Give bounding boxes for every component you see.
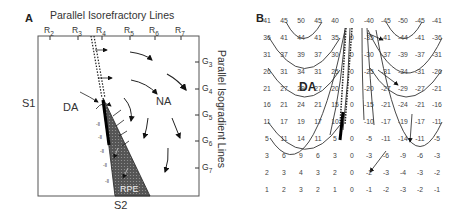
grid-cell: -11 bbox=[412, 135, 428, 142]
grid-cell: -40 bbox=[361, 17, 377, 24]
grid-cell: 21 bbox=[259, 85, 275, 92]
grid-cell: 16 bbox=[259, 101, 275, 108]
grid-cell: 29 bbox=[293, 85, 309, 92]
grid-cell: 0 bbox=[344, 186, 360, 193]
grid-cell: 31 bbox=[259, 51, 275, 58]
grid-cell: -15 bbox=[361, 101, 377, 108]
grid-cell: 3 bbox=[310, 169, 326, 176]
grid-cell: -3 bbox=[395, 186, 411, 193]
grid-cell: 4 bbox=[293, 169, 309, 176]
grid-cell: -41 bbox=[429, 17, 445, 24]
grid-cell: 27 bbox=[310, 85, 326, 92]
grid-cell: 31 bbox=[310, 68, 326, 75]
grid-cell: 3 bbox=[293, 186, 309, 193]
grid-cell: -21 bbox=[412, 101, 428, 108]
grid-cell: 3 bbox=[276, 169, 292, 176]
grid-cell: 37 bbox=[276, 51, 292, 58]
grid-cell: 0 bbox=[344, 152, 360, 159]
grid-cell: -10 bbox=[361, 118, 377, 125]
grid-cell: 20 bbox=[327, 85, 343, 92]
grid-cell: -1 bbox=[361, 186, 377, 193]
grid-cell: 24 bbox=[293, 101, 309, 108]
grid-cell: -25 bbox=[361, 68, 377, 75]
grid-cell: 19 bbox=[293, 118, 309, 125]
grid-cell: 30 bbox=[327, 51, 343, 58]
grid-cell: -45 bbox=[412, 17, 428, 24]
grid-cell: 0 bbox=[344, 17, 360, 24]
grid-cell: 34 bbox=[293, 68, 309, 75]
grid-cell: 45 bbox=[276, 17, 292, 24]
grid-cell: 41 bbox=[310, 34, 326, 41]
grid-cell: -2 bbox=[429, 169, 445, 176]
grid-cell: 17 bbox=[310, 118, 326, 125]
grid-cell: -44 bbox=[395, 34, 411, 41]
grid-cell: 14 bbox=[293, 135, 309, 142]
grid-cell: -11 bbox=[378, 135, 394, 142]
grid-cell: 35 bbox=[327, 34, 343, 41]
grid-cell: 17 bbox=[276, 118, 292, 125]
grid-cell: -2 bbox=[378, 186, 394, 193]
grid-cell: -50 bbox=[395, 17, 411, 24]
grid-cell: 40 bbox=[327, 17, 343, 24]
grid-cell: 41 bbox=[276, 34, 292, 41]
grid-cell: 0 bbox=[344, 135, 360, 142]
grid-cell: -41 bbox=[412, 34, 428, 41]
grid-cell: 2 bbox=[276, 186, 292, 193]
grid-cell: -34 bbox=[395, 68, 411, 75]
grid-cell: 41 bbox=[259, 17, 275, 24]
grid-cell: 0 bbox=[344, 85, 360, 92]
grid-cell: -14 bbox=[395, 135, 411, 142]
grid-cell: -31 bbox=[378, 68, 394, 75]
grid-cell: 11 bbox=[276, 135, 292, 142]
grid-cell: 3 bbox=[259, 152, 275, 159]
grid-cell: 15 bbox=[327, 101, 343, 108]
grid-cell: -6 bbox=[378, 152, 394, 159]
grid-cell: 1 bbox=[259, 186, 275, 193]
grid-cell: 0 bbox=[344, 101, 360, 108]
grid-cell: -24 bbox=[395, 101, 411, 108]
grid-cell: 39 bbox=[293, 51, 309, 58]
grid-cell: -2 bbox=[361, 169, 377, 176]
grid-cell: -5 bbox=[361, 135, 377, 142]
grid-cell: -30 bbox=[361, 51, 377, 58]
grid-cell: 0 bbox=[344, 34, 360, 41]
grid-cell: 1 bbox=[327, 186, 343, 193]
grid-cell: 5 bbox=[327, 135, 343, 142]
grid-cell: -3 bbox=[361, 152, 377, 159]
grid-cell: 2 bbox=[327, 169, 343, 176]
grid-cell: -45 bbox=[378, 17, 394, 24]
grid-cell: 11 bbox=[259, 118, 275, 125]
grid-cell: -37 bbox=[412, 51, 428, 58]
grid-cell: -2 bbox=[412, 186, 428, 193]
grid-cell: -19 bbox=[395, 118, 411, 125]
grid-cell: 37 bbox=[310, 51, 326, 58]
panel-b-curves bbox=[0, 0, 461, 216]
grid-cell: 5 bbox=[259, 135, 275, 142]
grid-cell: -1 bbox=[429, 186, 445, 193]
grid-cell: 11 bbox=[310, 135, 326, 142]
grid-cell: 0 bbox=[344, 51, 360, 58]
grid-cell: 3 bbox=[327, 152, 343, 159]
grid-cell: -27 bbox=[378, 85, 394, 92]
grid-cell: -26 bbox=[429, 68, 445, 75]
grid-cell: 50 bbox=[293, 17, 309, 24]
grid-cell: -21 bbox=[378, 101, 394, 108]
grid-cell: 6 bbox=[276, 152, 292, 159]
grid-cell: 2 bbox=[259, 169, 275, 176]
grid-cell: -36 bbox=[429, 34, 445, 41]
grid-cell: 44 bbox=[293, 34, 309, 41]
grid-cell: 6 bbox=[310, 152, 326, 159]
grid-cell: -29 bbox=[395, 85, 411, 92]
grid-cell: -39 bbox=[395, 51, 411, 58]
grid-cell: 0 bbox=[344, 118, 360, 125]
grid-cell: 0 bbox=[344, 169, 360, 176]
grid-cell: -31 bbox=[412, 68, 428, 75]
grid-cell: 45 bbox=[310, 17, 326, 24]
grid-cell: -37 bbox=[378, 51, 394, 58]
grid-cell: -9 bbox=[395, 152, 411, 159]
grid-cell: 27 bbox=[276, 85, 292, 92]
grid-cell: -11 bbox=[429, 118, 445, 125]
grid-cell: -20 bbox=[361, 85, 377, 92]
grid-cell: -17 bbox=[412, 118, 428, 125]
grid-cell: 2 bbox=[310, 186, 326, 193]
